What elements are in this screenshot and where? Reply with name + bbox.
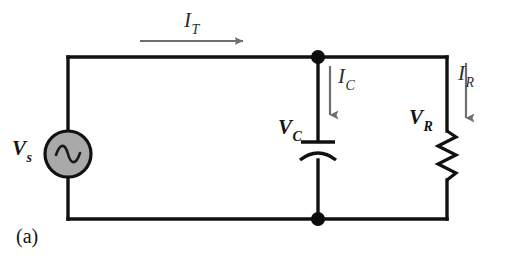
capacitor: [300, 142, 336, 160]
resistor-voltage-symbol: V: [409, 105, 423, 129]
capacitor-voltage-label: VC: [278, 117, 301, 141]
capacitor-voltage-subscript: C: [293, 129, 302, 144]
resistor-current-symbol: I: [458, 61, 465, 85]
capacitor-current-subscript: C: [346, 78, 355, 93]
resistor-current-label: IR: [458, 63, 474, 87]
total-current-label: IT: [184, 10, 199, 34]
bottom-junction-node: [311, 212, 325, 226]
capacitor-current-symbol: I: [338, 64, 345, 88]
total-current-subscript: T: [192, 22, 200, 37]
ac-voltage-source: [45, 131, 91, 177]
resistor-voltage-label: VR: [409, 107, 432, 131]
total-current-symbol: I: [184, 8, 191, 32]
source-voltage-label: Vs: [12, 138, 31, 162]
source-voltage-subscript: s: [27, 150, 32, 165]
resistor-voltage-subscript: R: [424, 119, 433, 134]
figure-caption: (a): [16, 226, 38, 246]
capacitor-current-label: IC: [338, 66, 354, 90]
resistor: [438, 131, 456, 180]
capacitor-voltage-symbol: V: [278, 115, 292, 139]
circuit-figure: Vs VC VR IT IC IR (a): [0, 0, 507, 263]
circuit-wires: [68, 57, 447, 219]
top-junction-node: [311, 50, 325, 64]
resistor-zigzag: [438, 131, 456, 180]
resistor-current-subscript: R: [466, 75, 475, 90]
source-voltage-symbol: V: [12, 136, 26, 160]
